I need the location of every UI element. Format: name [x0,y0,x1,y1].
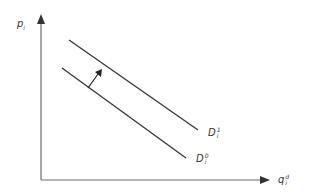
y-axis-arrowhead-icon [37,14,45,24]
x-axis [41,176,270,184]
y-axis-label: pi [17,19,25,31]
x-axis-arrowhead-icon [260,176,270,184]
demand-curve-d0 [62,68,186,158]
demand-curve-d1 [69,40,198,130]
y-axis [37,14,45,180]
shift-arrow-icon [88,69,102,88]
curve-label-d1: D1i [208,127,221,139]
demand-shift-diagram [0,0,310,195]
curve-label-d0: D0i [196,153,209,165]
x-axis-label: qdi [278,174,289,186]
